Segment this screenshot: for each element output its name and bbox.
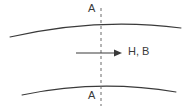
diagram-canvas (0, 0, 192, 107)
section-label-bottom: A (88, 90, 95, 101)
figure-root: A A H, B (0, 0, 192, 107)
field-label: H, B (128, 46, 149, 57)
section-label-top: A (88, 3, 95, 14)
